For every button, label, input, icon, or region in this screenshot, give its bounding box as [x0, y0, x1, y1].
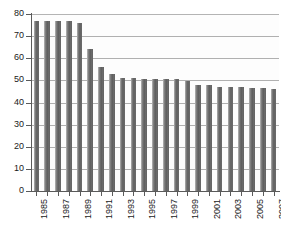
y-axis-label: 80 — [2, 9, 24, 18]
bar-slot — [214, 14, 225, 191]
bar — [141, 79, 147, 191]
bar-slot — [160, 14, 171, 191]
x-axis-label: 1995 — [148, 199, 157, 219]
bar-slot — [225, 14, 236, 191]
x-axis-label: 1991 — [105, 199, 114, 219]
y-axis-label: 30 — [2, 120, 24, 129]
bar — [131, 78, 137, 191]
bar-slot — [268, 14, 279, 191]
bar — [206, 85, 212, 191]
bar-slot — [85, 14, 96, 191]
x-axis-label: 2007 — [278, 199, 281, 219]
x-axis-tick — [123, 192, 124, 196]
bar — [34, 21, 40, 191]
x-axis-tick — [101, 192, 102, 196]
bar — [217, 87, 223, 191]
bar-slot — [171, 14, 182, 191]
x-axis-label: 1985 — [40, 199, 49, 219]
y-axis-label: 50 — [2, 75, 24, 84]
bar-slot — [182, 14, 193, 191]
bar — [44, 21, 50, 191]
bar — [174, 79, 180, 191]
x-axis-tick — [47, 192, 48, 196]
bar-slot — [128, 14, 139, 191]
bar-slot — [106, 14, 117, 191]
x-axis-label: 1993 — [127, 199, 136, 219]
bar-slot — [247, 14, 258, 191]
bar — [109, 74, 115, 191]
bar-slot — [150, 14, 161, 191]
bar-slot — [74, 14, 85, 191]
bar — [98, 67, 104, 191]
x-axis-tick — [198, 192, 199, 196]
x-axis-tick — [112, 192, 113, 196]
bar — [163, 79, 169, 191]
x-axis-tick — [274, 192, 275, 196]
bar-slot — [31, 14, 42, 191]
x-axis-tick — [36, 192, 37, 196]
bar-slot — [257, 14, 268, 191]
x-axis-tick — [230, 192, 231, 196]
x-axis-tick — [155, 192, 156, 196]
x-axis-tick — [187, 192, 188, 196]
bar — [66, 21, 72, 191]
bar-slot — [139, 14, 150, 191]
y-axis-label: 0 — [2, 186, 24, 195]
x-axis-tick — [252, 192, 253, 196]
y-axis-label: 10 — [2, 164, 24, 173]
y-axis-label: 60 — [2, 53, 24, 62]
bar — [271, 89, 277, 191]
bar-slot — [63, 14, 74, 191]
bar-series — [31, 14, 280, 191]
x-axis-label: 2003 — [234, 199, 243, 219]
bar-slot — [193, 14, 204, 191]
x-axis-tick — [263, 192, 264, 196]
x-axis-label: 1999 — [191, 199, 200, 219]
bar-slot — [117, 14, 128, 191]
x-axis-tick — [80, 192, 81, 196]
x-axis-label: 1997 — [170, 199, 179, 219]
bar-slot — [236, 14, 247, 191]
bar — [77, 23, 83, 191]
x-axis-tick — [241, 192, 242, 196]
bar-slot — [204, 14, 215, 191]
bar-slot — [53, 14, 64, 191]
bar — [87, 49, 93, 191]
x-axis-tick — [166, 192, 167, 196]
x-axis-tick — [133, 192, 134, 196]
x-axis-tick — [220, 192, 221, 196]
bar — [260, 88, 266, 191]
bar-slot — [42, 14, 53, 191]
y-axis-label: 20 — [2, 142, 24, 151]
x-axis-tick — [90, 192, 91, 196]
x-axis-label: 2005 — [256, 199, 265, 219]
bar — [238, 87, 244, 191]
x-axis-tick — [209, 192, 210, 196]
y-axis-label: 70 — [2, 31, 24, 40]
bar — [152, 79, 158, 191]
x-axis-tick — [69, 192, 70, 196]
x-axis-tick — [177, 192, 178, 196]
x-axis-tick — [58, 192, 59, 196]
bar — [228, 87, 234, 191]
bar — [249, 88, 255, 191]
bar — [120, 78, 126, 191]
bar-chart: 01020304050607080 1985198719891991199319… — [0, 0, 281, 237]
x-axis-label: 1987 — [62, 199, 71, 219]
x-axis-label: 1989 — [84, 199, 93, 219]
bar — [185, 81, 191, 191]
x-axis-tick — [144, 192, 145, 196]
bar — [195, 85, 201, 191]
y-axis-label: 40 — [2, 98, 24, 107]
bar — [55, 21, 61, 191]
x-axis-label: 2001 — [213, 199, 222, 219]
y-axis-tick — [26, 191, 31, 192]
bar-slot — [96, 14, 107, 191]
